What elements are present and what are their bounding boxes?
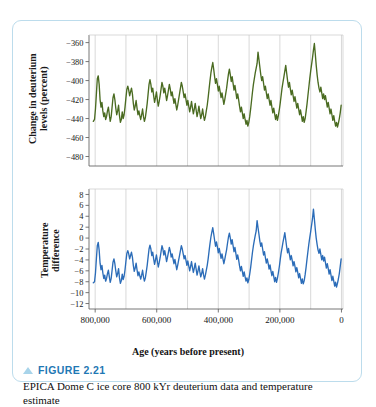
y-tick-label: −4 bbox=[75, 256, 85, 265]
y-tick-label: −400 bbox=[66, 77, 83, 86]
page-bleed-artifact bbox=[0, 0, 376, 10]
x-axis-title: Age (years before present) bbox=[13, 346, 363, 357]
y-tick-label: 4 bbox=[79, 212, 84, 221]
y-tick-label: 0 bbox=[79, 234, 83, 243]
figure-number-line: FIGURE 2.21 bbox=[23, 364, 355, 376]
x-tick-label: 800,000 bbox=[81, 315, 111, 325]
figure-caption-text: EPICA Dome C ice core 800 kYr deuterium … bbox=[23, 379, 323, 407]
x-tick-label: 400,000 bbox=[204, 315, 234, 325]
y-tick-label: −6 bbox=[75, 267, 84, 276]
figure-number: FIGURE 2.21 bbox=[38, 364, 105, 376]
y-tick-label: −2 bbox=[75, 245, 84, 254]
x-tick-label: 0 bbox=[339, 315, 344, 325]
y-tick-label: −440 bbox=[66, 115, 83, 124]
triangle-up-icon bbox=[23, 367, 33, 374]
y-tick-label: 8 bbox=[79, 191, 83, 200]
y-tick-label: −420 bbox=[66, 96, 83, 105]
deuterium-chart: Change in deuterium levels (percent) −36… bbox=[13, 21, 363, 181]
figure-caption-block: FIGURE 2.21 EPICA Dome C ice core 800 kY… bbox=[23, 364, 355, 407]
x-tick-label: 600,000 bbox=[142, 315, 172, 325]
y-tick-label: −380 bbox=[66, 58, 83, 67]
y-tick-label: −460 bbox=[66, 134, 83, 143]
y-tick-label: −480 bbox=[66, 153, 83, 162]
temperature-chart: Temperature difference 86420−2−4−6−8−10−… bbox=[13, 181, 363, 336]
y-tick-label: 6 bbox=[79, 201, 83, 210]
y-tick-label: −360 bbox=[66, 39, 83, 48]
y-tick-label: −10 bbox=[70, 289, 83, 298]
deuterium-plot-svg: −360−380−400−420−440−460−480 bbox=[13, 21, 363, 181]
y-tick-label: −12 bbox=[70, 300, 83, 309]
figure-box: Change in deuterium levels (percent) −36… bbox=[12, 20, 362, 382]
temperature-plot-svg: 86420−2−4−6−8−10−12800,000600,000400,000… bbox=[13, 181, 363, 336]
y-tick-label: −8 bbox=[75, 278, 84, 287]
y-tick-label: 2 bbox=[79, 223, 83, 232]
x-tick-label: 200,000 bbox=[265, 315, 295, 325]
